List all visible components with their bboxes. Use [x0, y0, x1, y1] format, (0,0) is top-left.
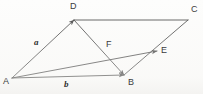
vertex-label-c: C — [191, 5, 198, 14]
vertex-label-a: A — [3, 77, 9, 86]
vertex-label-d: D — [70, 2, 77, 11]
segment-A-B — [12, 75, 124, 78]
vertex-label-f: F — [106, 40, 112, 49]
segment-D-B — [74, 20, 124, 75]
vertex-label-e: E — [161, 46, 167, 55]
vertex-label-b: B — [128, 78, 134, 87]
segment-B-C — [124, 20, 188, 75]
vector-label-a: a — [34, 38, 39, 47]
segment-A-E — [12, 51, 157, 78]
figure-canvas — [0, 0, 203, 94]
segment-A-D — [12, 20, 74, 78]
geometry-figure: ABCDEF ab — [0, 0, 203, 94]
vector-label-b: b — [64, 80, 69, 89]
